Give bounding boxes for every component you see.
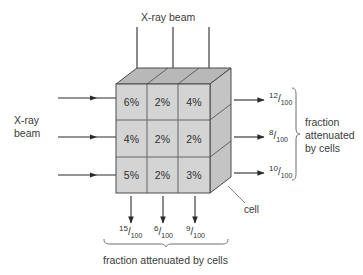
row-total-1-denominator: 100 [281, 99, 293, 106]
right-caption: fractionattenuatedby cells [305, 116, 355, 155]
right-caption-line3: by cells [305, 142, 340, 154]
right-brace [292, 88, 300, 180]
cell-leader-line [228, 186, 245, 203]
bottom-brace [104, 239, 228, 247]
cell-value-r1c2: 2% [147, 96, 178, 109]
column-total-1-denominator: 100 [131, 232, 143, 239]
left-beam-arrows [58, 96, 118, 178]
row-total-3-denominator: 100 [281, 172, 293, 179]
row-total-3-numerator: 10 [269, 164, 278, 173]
cell-value-r1c3: 4% [178, 96, 210, 109]
right-output-arrows [234, 100, 264, 173]
bottom-output-arrows [131, 196, 195, 223]
right-caption-line1: fraction [305, 116, 339, 128]
column-total-3-denominator: 100 [193, 232, 205, 239]
left-beam-label-line2: beam [14, 127, 40, 139]
column-total-2: 6/100 [154, 226, 173, 237]
cell-value-r2c1: 4% [116, 133, 147, 146]
right-caption-line2: attenuated [305, 129, 355, 141]
cell-label: cell [244, 204, 259, 217]
bottom-caption: fraction attenuated by cells [103, 254, 228, 267]
cell-value-r2c2: 2% [147, 133, 178, 146]
row-total-2: 8/100 [269, 130, 288, 141]
column-total-1: 15/100 [119, 226, 142, 237]
row-total-1-numerator: 12 [269, 91, 278, 100]
cube-right-face [210, 68, 231, 193]
cell-value-r3c2: 2% [147, 169, 178, 182]
column-total-1-numerator: 15 [119, 224, 128, 233]
column-total-2-denominator: 100 [161, 232, 173, 239]
cell-value-r3c1: 5% [116, 169, 147, 182]
column-total-3: 9/100 [186, 226, 205, 237]
left-beam-label-line1: X-ray [14, 114, 39, 126]
cell-value-r2c3: 2% [178, 133, 210, 146]
row-total-2-denominator: 100 [276, 136, 288, 143]
cell-value-r3c3: 3% [178, 169, 210, 182]
row-total-3: 10/100 [269, 166, 292, 177]
left-beam-label: X-raybeam [14, 114, 40, 140]
cell-value-r1c1: 6% [116, 96, 147, 109]
top-beam-label: X-ray beam [141, 11, 195, 24]
row-total-1: 12/100 [269, 93, 292, 104]
